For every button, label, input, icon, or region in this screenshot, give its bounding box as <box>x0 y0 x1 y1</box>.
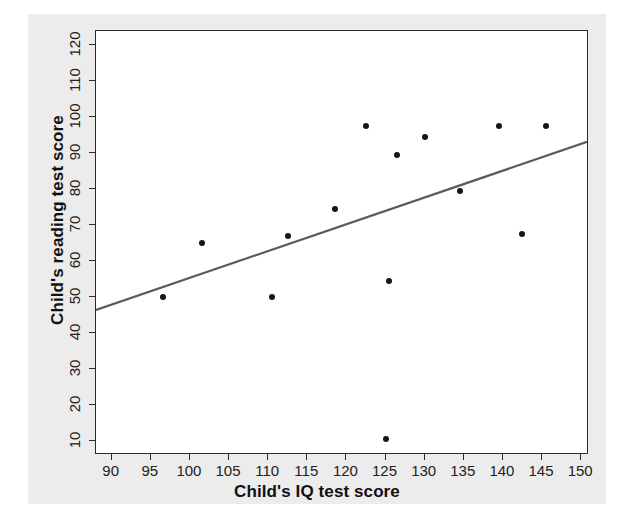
x-tick-label: 105 <box>216 462 241 479</box>
data-point <box>457 188 463 194</box>
y-tick-label: 90 <box>66 144 83 161</box>
y-tick-label: 20 <box>66 395 83 412</box>
x-tick-label: 130 <box>411 462 436 479</box>
regression-line-layer <box>96 31 587 453</box>
x-tick-mark <box>228 454 229 460</box>
y-tick-label: 100 <box>66 104 83 129</box>
x-tick-mark <box>111 454 112 460</box>
data-point <box>422 134 428 140</box>
y-tick-label: 50 <box>66 288 83 305</box>
x-tick-mark <box>463 454 464 460</box>
data-point <box>160 294 166 300</box>
y-tick-label: 110 <box>66 68 83 92</box>
x-tick-mark <box>345 454 346 460</box>
y-tick-label: 70 <box>66 216 83 233</box>
x-tick-mark <box>502 454 503 460</box>
x-tick-label: 95 <box>141 462 158 479</box>
y-tick-label: 40 <box>66 323 83 340</box>
data-point <box>285 233 291 239</box>
regression-line <box>96 142 587 310</box>
x-tick-label: 145 <box>529 462 554 479</box>
x-tick-label: 100 <box>176 462 201 479</box>
data-point <box>269 294 275 300</box>
x-tick-label: 150 <box>568 462 593 479</box>
x-tick-label: 120 <box>333 462 358 479</box>
x-tick-mark <box>189 454 190 460</box>
y-tick-label: 10 <box>66 431 83 448</box>
x-tick-mark <box>541 454 542 460</box>
x-tick-label: 135 <box>450 462 475 479</box>
x-tick-label: 115 <box>294 462 318 479</box>
plot-area <box>95 30 588 454</box>
x-axis-title: Child's IQ test score <box>28 482 606 502</box>
data-point <box>199 240 205 246</box>
x-tick-label: 90 <box>102 462 119 479</box>
data-point <box>332 206 338 212</box>
x-tick-mark <box>267 454 268 460</box>
y-tick-label: 60 <box>66 252 83 269</box>
x-tick-mark <box>580 454 581 460</box>
y-tick-label: 80 <box>66 180 83 197</box>
x-tick-mark <box>306 454 307 460</box>
x-tick-label: 125 <box>372 462 397 479</box>
scatter-plot-figure: Child's reading test score Child's IQ te… <box>0 0 619 528</box>
x-tick-mark <box>385 454 386 460</box>
data-point <box>383 436 389 442</box>
y-tick-label: 30 <box>66 359 83 376</box>
x-tick-label: 110 <box>255 462 279 479</box>
y-tick-label: 120 <box>66 32 83 57</box>
x-tick-label: 140 <box>489 462 514 479</box>
x-tick-mark <box>150 454 151 460</box>
x-tick-mark <box>424 454 425 460</box>
